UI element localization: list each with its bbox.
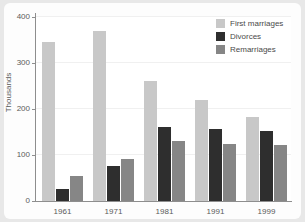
legend-label: Remarriages <box>230 46 276 54</box>
legend-label: Divorces <box>230 33 261 41</box>
legend-swatch <box>216 19 225 28</box>
bar[interactable] <box>144 81 157 201</box>
bar[interactable] <box>260 131 273 201</box>
bar[interactable] <box>93 31 106 201</box>
bar[interactable] <box>246 117 259 201</box>
bar[interactable] <box>172 141 185 201</box>
x-axis-line <box>36 201 292 202</box>
legend-item[interactable]: First marriages <box>216 19 283 28</box>
y-tick-label: 200 <box>0 105 30 113</box>
x-tick-label: 1999 <box>237 207 297 216</box>
y-tick-label: 100 <box>0 151 30 159</box>
bar[interactable] <box>209 129 222 201</box>
legend-swatch <box>216 32 225 41</box>
y-tick-mark <box>32 155 36 156</box>
y-tick-label: 400 <box>0 13 30 21</box>
y-tick-mark <box>32 17 36 18</box>
legend-item[interactable]: Divorces <box>216 32 283 41</box>
bar[interactable] <box>42 42 55 201</box>
legend-label: First marriages <box>230 20 283 28</box>
bar[interactable] <box>274 145 287 201</box>
bar-group <box>93 17 134 201</box>
bar[interactable] <box>195 100 208 201</box>
chart-figure: Thousands 0100200300400 1961197119811991… <box>0 0 305 222</box>
bar[interactable] <box>121 159 134 201</box>
bar[interactable] <box>223 144 236 202</box>
y-axis-title: Thousands <box>4 63 13 123</box>
y-tick-mark <box>32 201 36 202</box>
y-tick-label: 0 <box>0 197 30 205</box>
legend-item[interactable]: Remarriages <box>216 45 283 54</box>
bar[interactable] <box>107 166 120 201</box>
y-tick-mark <box>32 109 36 110</box>
y-tick-mark <box>32 63 36 64</box>
bar[interactable] <box>70 176 83 201</box>
y-tick-label: 300 <box>0 59 30 67</box>
legend-swatch <box>216 45 225 54</box>
bar-group <box>42 17 83 201</box>
bar[interactable] <box>158 127 171 201</box>
chart-legend: First marriagesDivorcesRemarriages <box>216 19 283 54</box>
bar-group <box>144 17 185 201</box>
bar[interactable] <box>56 189 69 201</box>
